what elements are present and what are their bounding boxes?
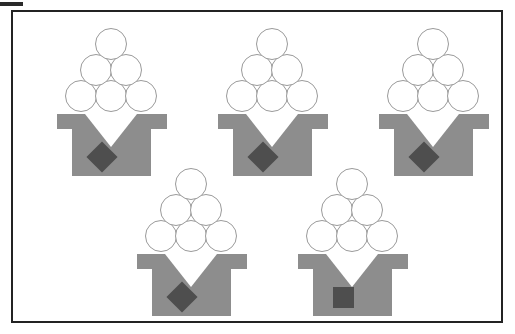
icon-figure[interactable] [137,168,247,318]
icon-figure[interactable] [218,28,328,178]
triangle-notch-icon [246,114,298,147]
icon-figure[interactable] [379,28,489,178]
ball-pyramid [218,28,328,114]
triangle-notch-icon [326,254,378,287]
icon-figure[interactable] [298,168,408,318]
circle-ball [417,28,449,60]
figure-frame [11,10,503,323]
ball-pyramid [137,168,247,254]
circle-ball [95,28,127,60]
circle-ball [336,168,368,200]
figure-canvas [0,0,515,334]
square-emblem-icon [333,287,354,308]
scan-artifact-bar [0,2,23,6]
triangle-notch-icon [407,114,459,147]
icon-figure[interactable] [57,28,167,178]
triangle-notch-icon [165,254,217,287]
triangle-notch-icon [85,114,137,147]
ball-pyramid [298,168,408,254]
circle-ball [175,168,207,200]
circle-ball [256,28,288,60]
ball-pyramid [57,28,167,114]
ball-pyramid [379,28,489,114]
